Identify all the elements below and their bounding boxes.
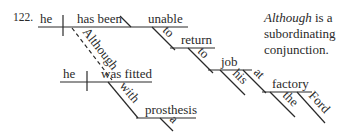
- main-subject: he: [40, 11, 53, 26]
- note-italic-word: Although: [263, 10, 312, 25]
- note-line-3: conjunction.: [264, 42, 329, 57]
- main-verb: has been: [77, 11, 123, 26]
- exercise-number: 122.: [13, 11, 33, 23]
- object-word: job: [220, 54, 238, 69]
- sub-subject: he: [63, 66, 76, 81]
- note-line-1-rest: is a: [312, 10, 333, 25]
- main-complement: unable: [148, 11, 183, 26]
- note-line-1: Although is a: [263, 10, 333, 25]
- note-line-2: subordinating: [264, 26, 336, 41]
- preposition-at: at: [251, 65, 269, 83]
- sentence-diagram: 122. he has been unable Although to retu…: [0, 0, 349, 138]
- sub-prep-object: prosthesis: [145, 102, 197, 117]
